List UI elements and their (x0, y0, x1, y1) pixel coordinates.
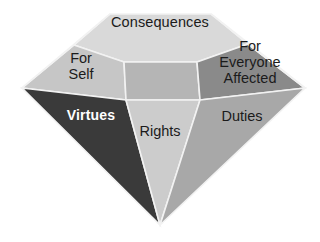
ethics-diamond-diagram: Consequences For Self For Everyone Affec… (0, 0, 320, 242)
facet-center-crown (124, 62, 200, 100)
diamond-graphic (0, 0, 320, 242)
